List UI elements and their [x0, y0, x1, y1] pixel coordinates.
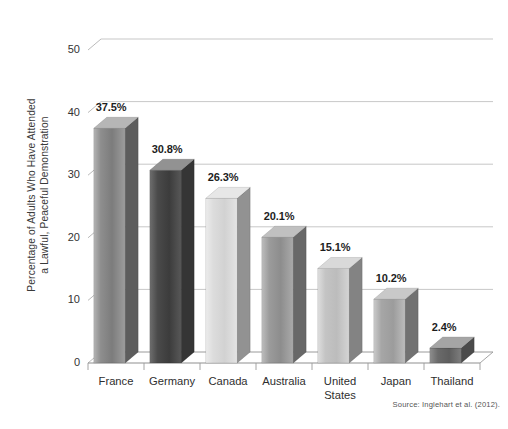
bar-japan — [374, 288, 418, 363]
bar-side-shade — [405, 288, 418, 363]
bar-side-shade — [349, 257, 362, 363]
bar-france — [94, 117, 138, 363]
bar-front-face — [94, 128, 125, 363]
plot-area — [0, 0, 508, 429]
floor-right-edge — [480, 352, 493, 363]
x-axis-category-label: France — [88, 375, 144, 389]
source-note: Source: Inglehart et al. (2012). — [393, 400, 500, 409]
x-axis-category-label: Thailand — [424, 375, 480, 389]
bar-front-face — [262, 237, 293, 363]
bar-chart: Percentage of Adults Who Have Attended a… — [0, 0, 508, 429]
bar-value-label: 30.8% — [152, 143, 183, 155]
bar-value-label: 15.1% — [320, 241, 351, 253]
bar-value-label: 37.5% — [96, 101, 127, 113]
bar-united-states — [318, 257, 362, 363]
bar-canada — [206, 187, 250, 363]
bar-value-label: 2.4% — [432, 321, 457, 333]
x-axis-category-label: Canada — [200, 375, 256, 389]
bar-side-shade — [125, 117, 138, 363]
x-axis-category-label: Australia — [256, 375, 312, 389]
bar-thailand — [430, 337, 474, 363]
bar-front-face — [206, 198, 237, 363]
bar-front-face — [430, 348, 461, 363]
bar-front-face — [374, 299, 405, 363]
bar-front-face — [318, 268, 349, 363]
bar-value-label: 26.3% — [208, 171, 239, 183]
bar-australia — [262, 226, 306, 363]
x-axis-category-label: Japan — [368, 375, 424, 389]
bar-value-label: 10.2% — [376, 272, 407, 284]
bar-germany — [150, 159, 194, 363]
bar-side-shade — [181, 159, 194, 363]
x-axis-category-label: Germany — [144, 375, 200, 389]
x-axis-category-label: United States — [312, 375, 368, 402]
bar-side-shade — [237, 187, 250, 363]
bar-value-label: 20.1% — [264, 210, 295, 222]
bar-front-face — [150, 170, 181, 363]
bar-side-shade — [293, 226, 306, 363]
gridline-tick — [88, 39, 101, 50]
